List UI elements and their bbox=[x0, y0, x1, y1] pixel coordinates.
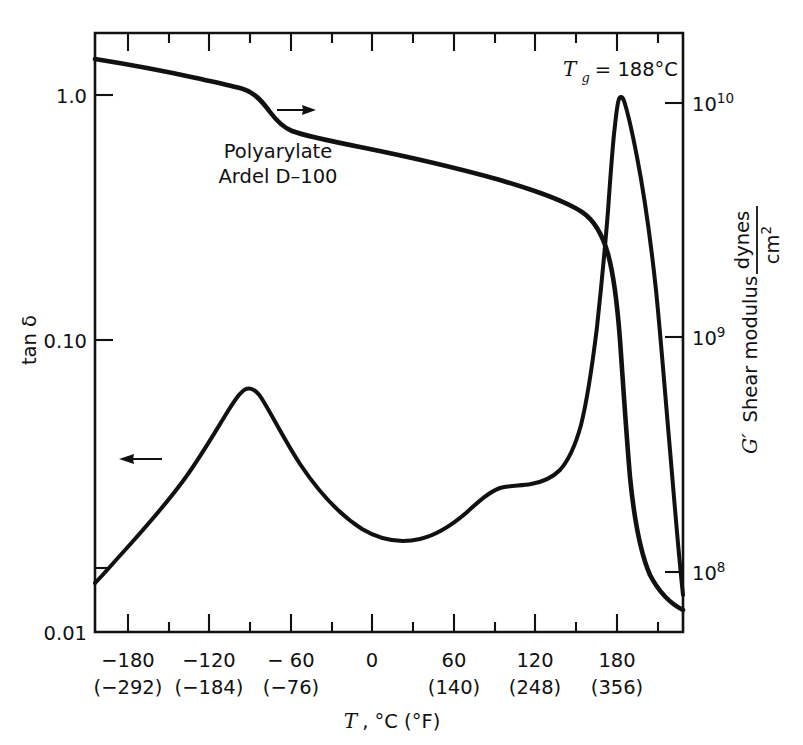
left-pointing-arrow-to-tan-delta-axis bbox=[119, 454, 162, 464]
sample-annotation: Polyarylate Ardel D–100 bbox=[219, 140, 338, 188]
tg-subscript: g bbox=[581, 70, 589, 85]
y-left-tick-label-3: 0.01 bbox=[44, 622, 87, 645]
y-axis-right-title-text: Shear modulus bbox=[739, 276, 762, 423]
unit-denominator-exponent: 2 bbox=[758, 226, 774, 235]
y-axis-left-title-text: tan δ bbox=[18, 315, 41, 365]
x-tick-celsius-2: −120 bbox=[182, 649, 236, 672]
x-tick-celsius-7: 180 bbox=[598, 649, 635, 672]
x-tick-fahrenheit-5: (140) bbox=[428, 676, 480, 699]
y-left-tick-label-2: 0.10 bbox=[44, 330, 87, 353]
y-axis-right-tick-labels: 1010 109 108 bbox=[692, 90, 734, 585]
tg-symbol: T bbox=[563, 57, 578, 81]
unit-denominator: cm bbox=[761, 234, 784, 264]
y-axis-right-title: G′ Shear modulus bbox=[738, 276, 762, 454]
x-tick-fahrenheit-2: (−184) bbox=[175, 676, 244, 699]
x-tick-celsius-6: 120 bbox=[516, 649, 553, 672]
x-axis-fahrenheit-labels: (−292) (−184) (−76) (140) (248) (356) bbox=[94, 676, 644, 699]
y-axis-right-unit-fraction: dynes cm2 bbox=[731, 206, 784, 274]
x-tick-celsius-5: 60 bbox=[442, 649, 467, 672]
x-axis-ticks-bottom bbox=[128, 614, 658, 632]
x-tick-celsius-4: 0 bbox=[366, 649, 378, 672]
dynamic-mechanical-spectrum-chart: 1.0 0.10 0.01 tan δ 1010 109 108 G′ Shea… bbox=[0, 0, 803, 745]
y-right-tick-base-2: 10 bbox=[692, 327, 717, 350]
y-axis-left-ticks bbox=[95, 95, 113, 568]
svg-text:G′ Shear modulus: G′ Shear modulus bbox=[738, 276, 762, 454]
unit-denominator-group: cm2 bbox=[758, 226, 784, 264]
x-tick-fahrenheit-3: (−76) bbox=[263, 676, 319, 699]
x-tick-fahrenheit-7: (356) bbox=[591, 676, 643, 699]
x-axis-title-text: , °C (°F) bbox=[362, 710, 440, 733]
y-axis-left-title: tan δ bbox=[18, 315, 41, 365]
sample-name-line-1: Polyarylate bbox=[224, 140, 332, 163]
right-pointing-arrow-to-shear-modulus-axis bbox=[277, 105, 316, 115]
y-right-tick-exp-2: 9 bbox=[717, 324, 726, 340]
svg-text:T , °C (°F): T , °C (°F) bbox=[344, 709, 441, 733]
x-tick-celsius-1: −180 bbox=[101, 649, 155, 672]
sample-name-line-2: Ardel D–100 bbox=[219, 165, 338, 188]
unit-numerator: dynes bbox=[731, 211, 754, 269]
x-tick-fahrenheit-1: (−292) bbox=[94, 676, 163, 699]
x-axis-title-symbol: T bbox=[344, 709, 359, 733]
glass-transition-annotation: T g = 188°C bbox=[563, 57, 678, 86]
x-axis-title: T , °C (°F) bbox=[344, 709, 441, 733]
y-right-tick-exp-1: 10 bbox=[717, 90, 734, 106]
y-right-tick-base-3: 10 bbox=[692, 562, 717, 585]
y-axis-left-tick-labels: 1.0 0.10 0.01 bbox=[44, 85, 87, 645]
figure-container: 1.0 0.10 0.01 tan δ 1010 109 108 G′ Shea… bbox=[0, 0, 803, 745]
x-tick-celsius-3: − 60 bbox=[267, 649, 314, 672]
y-left-tick-label-1: 1.0 bbox=[56, 85, 87, 108]
y-right-tick-base-1: 10 bbox=[692, 93, 717, 116]
x-axis-celsius-labels: −180 −120 − 60 0 60 120 180 bbox=[101, 649, 635, 672]
x-tick-fahrenheit-6: (248) bbox=[509, 676, 561, 699]
svg-text:T g = 188°C: T g = 188°C bbox=[563, 57, 678, 86]
y-right-tick-exp-3: 8 bbox=[717, 559, 726, 575]
y-right-tick-label-3: 108 bbox=[692, 559, 725, 585]
curve-tan-delta bbox=[95, 97, 683, 595]
y-axis-right-title-symbol: G′ bbox=[738, 433, 762, 454]
tg-value: = 188°C bbox=[595, 58, 678, 81]
y-right-tick-label-1: 1010 bbox=[692, 90, 734, 116]
x-axis-ticks-top bbox=[128, 33, 658, 51]
y-right-tick-label-2: 109 bbox=[692, 324, 725, 350]
